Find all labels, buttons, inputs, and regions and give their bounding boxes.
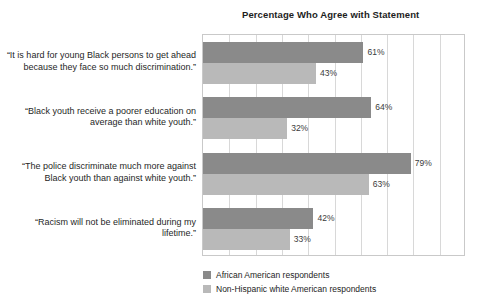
legend-swatch-icon [203, 285, 211, 293]
bar-0-3 [203, 208, 313, 229]
chart-title: Percentage Who Agree with Statement [242, 9, 482, 20]
legend-label: Non-Hispanic white American respondents [216, 284, 376, 294]
gridline [361, 35, 362, 255]
bar-0-2 [203, 153, 411, 174]
category-label: “Racism will not be eliminated during my… [6, 217, 196, 240]
bar-1-2 [203, 174, 369, 195]
legend-swatch-icon [203, 271, 211, 279]
legend-label: African American respondents [216, 270, 329, 280]
bar-1-1 [203, 118, 287, 139]
plot-area: 61%43%64%32%79%63%42%33% [202, 34, 465, 256]
bar-value-label: 32% [287, 118, 308, 139]
gridline [413, 35, 414, 255]
bar-value-label: 61% [363, 42, 384, 63]
bar-0-0 [203, 42, 363, 63]
legend-item: African American respondents [203, 268, 473, 281]
bar-0-1 [203, 97, 371, 118]
bar-value-label: 64% [371, 97, 392, 118]
bar-1-3 [203, 229, 290, 250]
legend-item: Non-Hispanic white American respondents [203, 282, 473, 295]
bar-value-label: 42% [313, 208, 334, 229]
bar-value-label: 63% [369, 174, 390, 195]
chart-legend: African American respondentsNon-Hispanic… [203, 268, 473, 296]
category-label: “Black youth receive a poorer education … [6, 106, 196, 129]
bar-chart: Percentage Who Agree with Statement 61%4… [0, 0, 486, 308]
bar-value-label: 33% [290, 229, 311, 250]
bar-1-0 [203, 63, 316, 84]
bar-value-label: 79% [411, 153, 432, 174]
gridline [387, 35, 388, 255]
category-label: “The police discriminate much more again… [6, 161, 196, 184]
gridline [440, 35, 441, 255]
category-label: “It is hard for young Black persons to g… [6, 50, 196, 73]
bar-value-label: 43% [316, 63, 337, 84]
